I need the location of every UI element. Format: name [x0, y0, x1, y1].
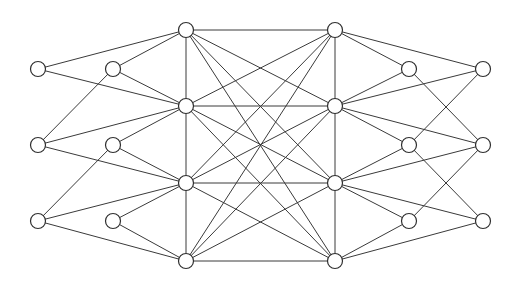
graph-edge: [342, 225, 403, 258]
graph-edge: [342, 110, 403, 142]
graph-node-l1a[interactable]: [31, 62, 46, 77]
graph-edge: [120, 34, 180, 66]
graph-edge: [120, 72, 180, 102]
graph-node-h2[interactable]: [179, 99, 194, 114]
graph-edge: [120, 110, 180, 142]
graph-edge: [120, 186, 180, 217]
graph-node-k1[interactable]: [328, 23, 343, 38]
graph-node-l1b[interactable]: [31, 138, 46, 153]
graph-node-k4[interactable]: [328, 254, 343, 269]
graph-node-h4[interactable]: [179, 254, 194, 269]
graph-edge: [43, 74, 107, 139]
graph-node-h1[interactable]: [179, 23, 194, 38]
graph-node-h3[interactable]: [179, 176, 194, 191]
graph-node-l1c[interactable]: [31, 214, 46, 229]
graph-edge: [342, 148, 403, 179]
graph-edge: [120, 225, 180, 258]
graph-node-l2b[interactable]: [106, 138, 121, 153]
graph-node-k2[interactable]: [328, 99, 343, 114]
graph-node-l2a[interactable]: [106, 62, 121, 77]
graph-node-r1c[interactable]: [476, 214, 491, 229]
graph-diagram-canvas: [0, 0, 517, 287]
graph-svg: [0, 0, 517, 287]
graph-node-r1b[interactable]: [476, 138, 491, 153]
graph-node-r1a[interactable]: [476, 62, 491, 77]
graph-node-r2c[interactable]: [402, 214, 417, 229]
graph-edge: [342, 34, 403, 66]
graph-node-r2a[interactable]: [402, 62, 417, 77]
graph-edge: [342, 72, 403, 102]
graph-node-k3[interactable]: [328, 176, 343, 191]
graph-node-r2b[interactable]: [402, 138, 417, 153]
graph-edge: [342, 186, 403, 217]
graph-node-l2c[interactable]: [106, 214, 121, 229]
graph-edge: [120, 148, 180, 179]
